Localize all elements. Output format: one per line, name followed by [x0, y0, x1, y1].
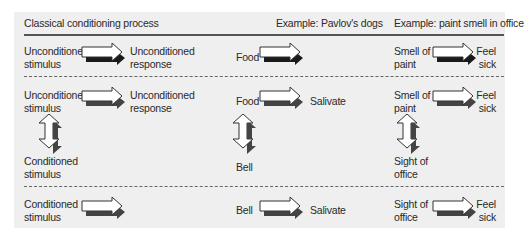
right-arrow-icon: [431, 43, 477, 67]
pavlov-from: Bell: [236, 204, 253, 217]
paint-from: Smell ofpaint: [394, 89, 430, 114]
pavlov-to: Salivate: [310, 95, 346, 108]
header-divider: [24, 34, 504, 36]
right-arrow-icon: [80, 43, 126, 67]
pavlov-paired: Bell: [236, 161, 253, 174]
up-down-arrow-icon: [396, 114, 424, 156]
right-arrow-icon: [258, 197, 304, 221]
header-process: Classical conditioning process: [24, 17, 159, 29]
process-to: Unconditionedresponse: [130, 45, 195, 70]
pavlov-from: Food: [236, 95, 259, 108]
paint-to: Feelsick: [476, 45, 496, 70]
paint-from: Smell ofpaint: [394, 45, 430, 70]
right-arrow-icon: [258, 87, 304, 111]
process-to: Unconditionedresponse: [130, 89, 195, 114]
row-divider: [24, 76, 504, 77]
process-paired: Conditionedstimulus: [24, 155, 78, 180]
process-from: Conditionedstimulus: [24, 198, 78, 223]
right-arrow-icon: [80, 87, 126, 111]
header-pavlov: Example: Pavlov's dogs: [276, 17, 383, 29]
paint-paired: Sight ofoffice: [394, 155, 428, 180]
row-divider: [24, 186, 504, 187]
right-arrow-icon: [258, 43, 304, 67]
process-from: Unconditionedstimulus: [24, 89, 89, 114]
header-paint: Example: paint smell in office: [394, 17, 524, 29]
process-from: Unconditionedstimulus: [24, 45, 89, 70]
up-down-arrow-icon: [38, 114, 66, 156]
right-arrow-icon: [431, 197, 477, 221]
right-arrow-icon: [431, 87, 477, 111]
right-arrow-icon: [80, 197, 126, 221]
pavlov-to: Salivate: [310, 204, 346, 217]
paint-to: Feelsick: [476, 198, 496, 223]
up-down-arrow-icon: [232, 114, 260, 156]
paint-from: Sight ofoffice: [394, 198, 428, 223]
pavlov-from: Food: [236, 51, 259, 64]
paint-to: Feelsick: [476, 89, 496, 114]
